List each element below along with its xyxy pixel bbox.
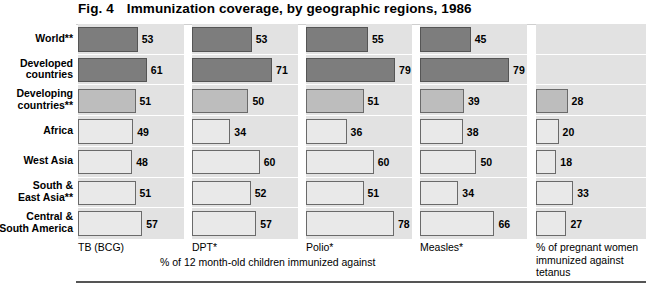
bar-value-label: 51 [368,95,380,107]
bar [78,58,147,83]
bar-value-label: 38 [467,126,479,138]
row-label-column: World**DevelopedcountriesDevelopingcount… [0,24,76,239]
bar [306,150,374,175]
bar [306,211,394,236]
bar [78,89,136,114]
bar [420,27,471,52]
panel-caption: TB (BCG) [78,241,124,253]
bar-value-label: 51 [140,187,152,199]
chart-area: World**DevelopedcountriesDevelopingcount… [0,24,653,239]
tetanus-axis-caption: % of pregnant women immunized against te… [536,241,648,279]
bar [420,181,458,206]
bar [420,211,494,236]
bar [78,211,142,236]
bar-value-label: 79 [513,64,525,76]
row-label-line: countries** [0,100,73,112]
panel-caption: Polio* [306,241,333,253]
bar [192,150,260,175]
row-label: Central &South America [0,211,73,234]
bar [192,211,256,236]
chart-panel: 53615149485157 [78,24,184,239]
bar [306,27,368,52]
bar-value-label: 50 [252,95,264,107]
bar [306,181,364,206]
bar [306,58,395,83]
bar-value-label: 57 [146,218,158,230]
bar [192,181,251,206]
row-label-line: countries [0,69,73,81]
bar-value-label: 50 [480,156,492,168]
bar [420,58,509,83]
bar [192,89,248,114]
bar-value-label: 51 [140,95,152,107]
bar [192,58,272,83]
row-label: Developingcountries** [0,88,73,111]
bar [536,150,556,175]
bar-value-label: 52 [255,187,267,199]
bar-value-label: 66 [498,218,510,230]
bar-value-label: 34 [234,126,246,138]
bar-value-label: 20 [563,126,575,138]
bar [192,119,230,144]
axis-note: % of 12 month-old children immunized aga… [160,256,375,268]
bar-value-label: 71 [276,64,288,76]
bar-value-label: 55 [372,33,384,45]
row-label-line: Africa [0,125,73,137]
bar-value-label: 60 [264,156,276,168]
bar-value-label: 53 [256,33,268,45]
chart-band [536,55,646,86]
bar-value-label: 78 [398,218,410,230]
row-label-line: South America [0,223,73,235]
chart-panel: 55795136605178 [306,24,412,239]
bar [78,150,132,175]
bar-value-label: 57 [260,218,272,230]
bar-value-label: 49 [137,126,149,138]
figure-number: Fig. 4 [78,1,114,16]
chart-band [536,24,646,55]
chart-panel: 2820183327 [536,24,646,239]
bar-value-label: 61 [151,64,163,76]
figure-title-text: Immunization coverage, by geographic reg… [127,1,472,16]
bar [306,89,364,114]
bar-value-label: 36 [351,126,363,138]
row-label: West Asia [0,155,73,167]
bar [536,181,573,206]
bar [536,211,566,236]
bottom-rule [76,281,646,283]
bar-value-label: 53 [142,33,154,45]
figure-title: Fig. 4Immunization coverage, by geograph… [78,1,472,16]
bar [78,27,138,52]
bar-value-label: 39 [468,95,480,107]
row-label-line: East Asia** [0,192,73,204]
panel-caption: DPT* [192,241,217,253]
bar [536,89,568,114]
panel-caption: Measles* [420,241,463,253]
bar [78,119,133,144]
bar-value-label: 48 [136,156,148,168]
bar-value-label: 60 [378,156,390,168]
bar-value-label: 18 [560,156,572,168]
bar-value-label: 28 [572,95,584,107]
bar [306,119,347,144]
chart-panel: 53715034605257 [192,24,298,239]
bar [192,27,252,52]
row-label-line: Central & [0,211,73,223]
bar-value-label: 51 [368,187,380,199]
bar [78,181,136,206]
row-label: Developedcountries [0,58,73,81]
bar-value-label: 33 [577,187,589,199]
bar-value-label: 34 [462,187,474,199]
row-label: World** [0,33,73,45]
bar [420,119,463,144]
bar-value-label: 45 [475,33,487,45]
bar-value-label: 27 [570,218,582,230]
bar [420,150,476,175]
bar-value-label: 79 [399,64,411,76]
row-label: South &East Asia** [0,180,73,203]
row-label-line: West Asia [0,155,73,167]
row-label-line: World** [0,33,73,45]
chart-panel: 45793938503466 [420,24,527,239]
bar [536,119,559,144]
bar [420,89,464,114]
row-label: Africa [0,125,73,137]
